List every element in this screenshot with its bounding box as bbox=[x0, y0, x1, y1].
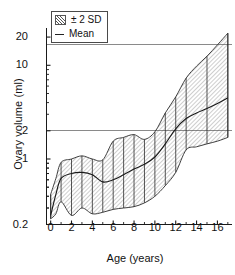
line-swatch-icon bbox=[55, 30, 64, 38]
y-axis-title: Ovary volume (ml) bbox=[12, 44, 24, 204]
x-tick-label: 14 bbox=[190, 222, 202, 233]
legend-item-sd: ± 2 SD bbox=[55, 14, 102, 27]
y-tick-label: 20 bbox=[0, 31, 36, 42]
x-tick-label: 12 bbox=[170, 222, 182, 233]
ovary-volume-chart-figure: 0.2121020 0246810121416 Ovary volume (ml… bbox=[0, 0, 235, 275]
chart-legend: ± 2 SD Mean bbox=[51, 11, 108, 43]
hatch-swatch-icon bbox=[55, 15, 66, 25]
x-tick-label: 16 bbox=[211, 222, 223, 233]
x-axis-title: Age (years) bbox=[40, 252, 230, 264]
x-tick-label: 8 bbox=[131, 222, 137, 233]
legend-label-sd: ± 2 SD bbox=[71, 14, 102, 27]
x-tick-labels: 0246810121416 bbox=[0, 222, 235, 238]
x-tick-label: 2 bbox=[68, 222, 74, 233]
x-tick-label: 6 bbox=[110, 222, 116, 233]
band-plus-minus-2sd bbox=[51, 33, 228, 219]
x-tick-label: 10 bbox=[149, 222, 161, 233]
legend-label-mean: Mean bbox=[69, 28, 94, 41]
x-tick-label: 0 bbox=[48, 222, 54, 233]
x-tick-label: 4 bbox=[89, 222, 95, 233]
legend-item-mean: Mean bbox=[55, 28, 102, 41]
